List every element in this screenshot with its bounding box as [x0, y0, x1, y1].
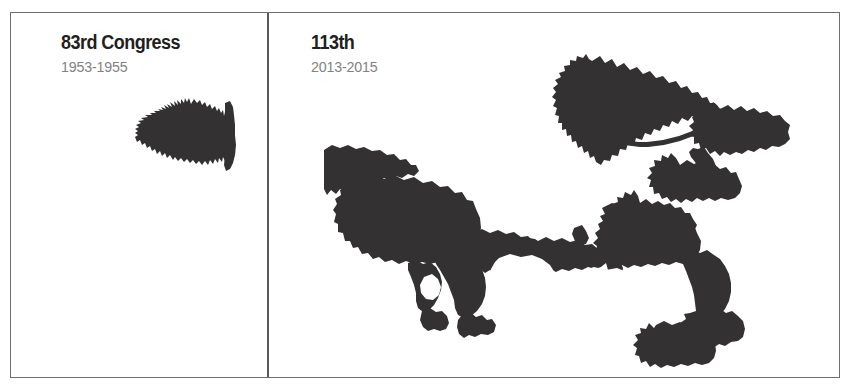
panel-83rd-congress: 83rd Congress 1953-1955	[11, 13, 269, 377]
district-comparison-figure: 83rd Congress 1953-1955 113th 2013-2015	[10, 12, 840, 378]
panel-years-left: 1953-1955	[61, 58, 251, 75]
panel-title-right: 113th	[311, 31, 491, 53]
district-shape-2013	[324, 53, 824, 371]
panel-heading-left: 83rd Congress 1953-1955	[61, 31, 261, 75]
district-shape-1953	[129, 85, 247, 181]
panel-title-left: 83rd Congress	[61, 31, 241, 53]
panel-113th-congress: 113th 2013-2015	[269, 13, 839, 377]
